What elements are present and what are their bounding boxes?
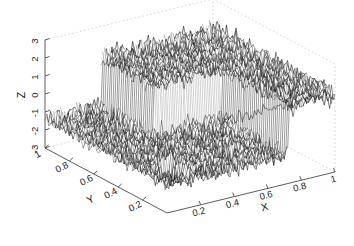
- svg-text:1: 1: [329, 173, 337, 185]
- svg-text:3: 3: [29, 38, 40, 43]
- svg-text:0.8: 0.8: [292, 180, 307, 194]
- svg-text:-2: -2: [29, 127, 40, 135]
- svg-text:0.2: 0.2: [191, 204, 206, 218]
- figure-canvas: 3210-1-2-3Z10.80.60.40.2Y0.20.40.60.81X: [0, 0, 354, 246]
- mesh-plot-svg: 3210-1-2-3Z10.80.60.40.2Y0.20.40.60.81X: [0, 0, 354, 246]
- svg-text:X: X: [260, 200, 270, 213]
- svg-text:1: 1: [32, 148, 42, 160]
- svg-text:0.8: 0.8: [53, 159, 70, 175]
- mesh-surface: [45, 20, 335, 190]
- svg-text:2: 2: [29, 56, 40, 61]
- svg-text:0.4: 0.4: [102, 185, 119, 201]
- svg-text:1: 1: [29, 74, 40, 79]
- svg-text:0: 0: [29, 92, 40, 97]
- svg-text:Y: Y: [84, 192, 96, 206]
- svg-text:-1: -1: [29, 109, 40, 117]
- svg-text:Z: Z: [15, 91, 27, 98]
- svg-text:0.2: 0.2: [127, 198, 144, 214]
- svg-text:0.6: 0.6: [78, 172, 95, 188]
- svg-text:0.4: 0.4: [225, 196, 240, 210]
